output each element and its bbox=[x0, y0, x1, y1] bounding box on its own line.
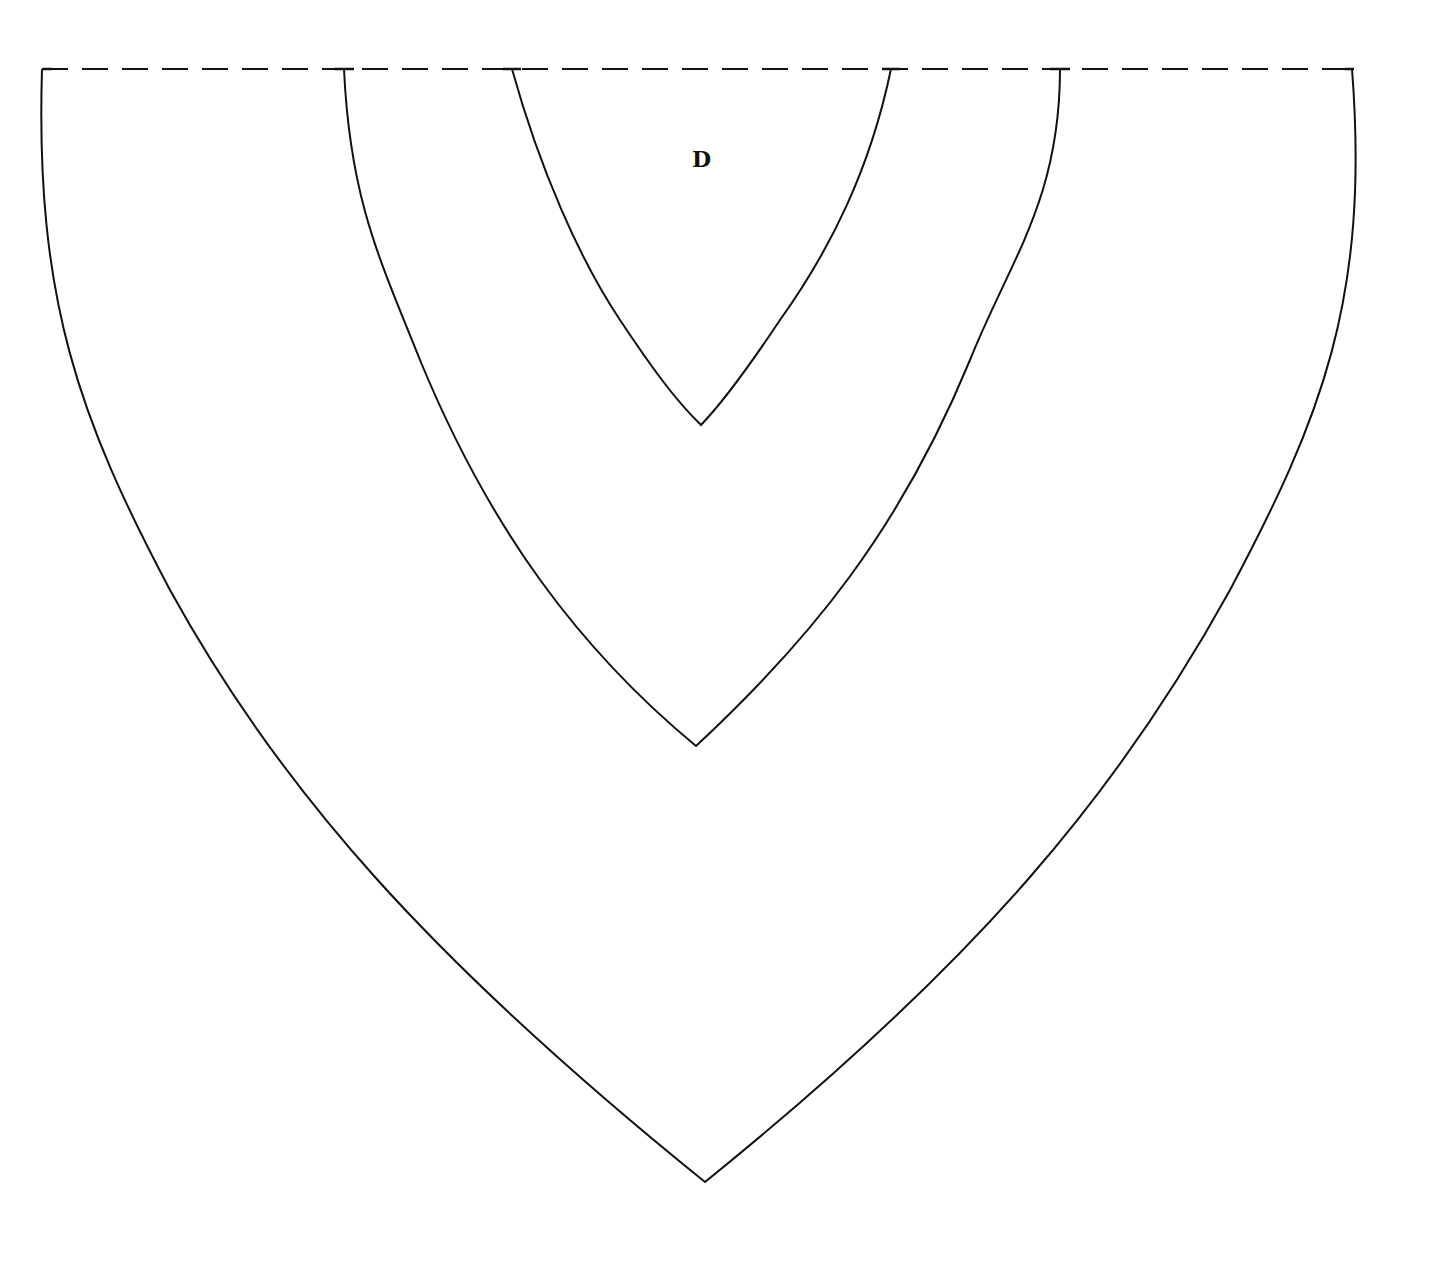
inner-curve bbox=[512, 69, 891, 425]
outer-curve bbox=[41, 69, 1355, 1182]
nested-curves-diagram bbox=[0, 0, 1444, 1264]
region-label-d: D bbox=[692, 146, 711, 172]
